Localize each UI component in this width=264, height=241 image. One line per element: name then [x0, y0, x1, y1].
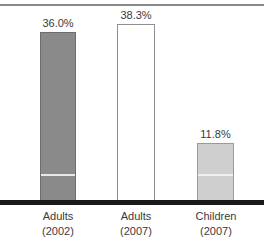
plot-area: 36.0% 38.3% 11.8% — [0, 0, 264, 204]
category-name: Children — [183, 209, 249, 224]
bar-hairline-artifact — [41, 174, 75, 176]
bar-chart: 36.0% 38.3% 11.8% Adults (2002) Adults (… — [0, 0, 264, 241]
bar-rect — [117, 24, 155, 204]
category-year: (2002) — [28, 224, 88, 239]
bar-value-label: 38.3% — [120, 9, 151, 21]
category-label-adults-2002: Adults (2002) — [28, 209, 88, 239]
category-name: Adults — [28, 209, 88, 224]
bar-rect — [40, 32, 76, 204]
category-axis: Adults (2002) Adults (2007) Children (20… — [0, 209, 264, 241]
bar-hairline-artifact — [198, 174, 233, 176]
category-label-children-2007: Children (2007) — [183, 209, 249, 239]
category-year: (2007) — [183, 224, 249, 239]
category-label-adults-2007: Adults (2007) — [106, 209, 166, 239]
category-name: Adults — [106, 209, 166, 224]
bar-value-label: 11.8% — [200, 128, 230, 140]
bar-group-adults-2002: 36.0% — [40, 32, 76, 204]
baseline-axis — [0, 200, 264, 205]
category-year: (2007) — [106, 224, 166, 239]
bar-group-adults-2007: 38.3% — [117, 24, 155, 204]
bar-rect — [197, 143, 234, 204]
bar-value-label: 36.0% — [42, 17, 73, 29]
bar-group-children-2007: 11.8% — [197, 143, 234, 204]
